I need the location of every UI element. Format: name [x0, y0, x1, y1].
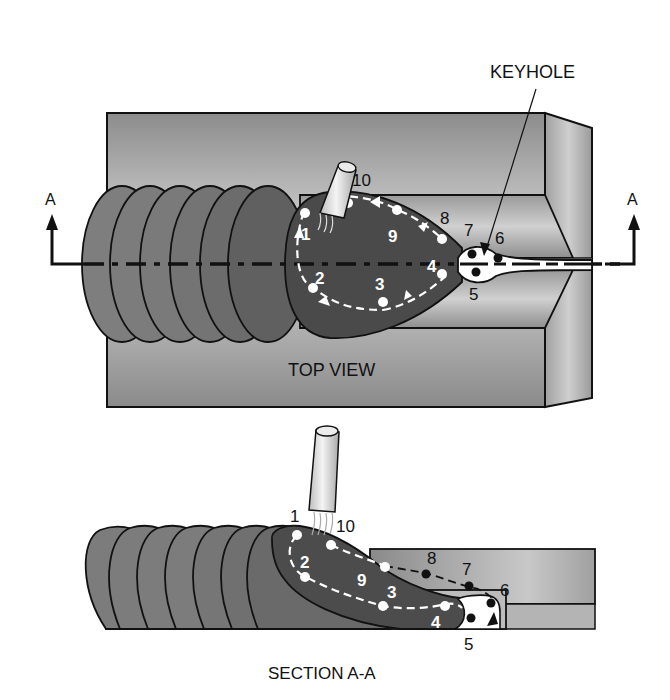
section-marker-left: A [45, 191, 56, 208]
top-view-title: TOP VIEW [288, 360, 375, 380]
point-label-3: 3 [375, 275, 384, 294]
section-point-label-8: 8 [427, 549, 436, 568]
section-point-label-9: 9 [357, 571, 366, 590]
point-label-10: 10 [352, 171, 371, 190]
point-label-6: 6 [495, 229, 504, 248]
section-point-label-10: 10 [336, 517, 355, 536]
electrode-section [309, 426, 339, 535]
section-point-label-6: 6 [500, 581, 509, 600]
keyhole-label: KEYHOLE [490, 62, 575, 82]
section-point-label-3: 3 [387, 583, 396, 602]
point-label-5: 5 [469, 285, 478, 304]
section-view: 1 2 3 4 5 6 7 8 9 10 SECTION A-A [86, 426, 595, 683]
point-label-2: 2 [315, 269, 324, 288]
section-point-label-1: 1 [290, 507, 299, 526]
section-marker-right: A [627, 191, 638, 208]
point-label-8: 8 [440, 209, 449, 228]
section-view-title: SECTION A-A [268, 664, 376, 683]
point-label-9: 9 [388, 227, 397, 246]
section-point-label-7: 7 [462, 560, 471, 579]
section-point-label-4: 4 [431, 613, 441, 632]
section-point-label-2: 2 [300, 553, 309, 572]
section-point-label-5: 5 [464, 635, 473, 654]
point-label-4: 4 [427, 257, 437, 276]
welding-keyhole-diagram: 1 2 3 4 5 6 7 8 9 10 A A KEYHOLE TOP VIE… [0, 0, 670, 700]
point-label-1: 1 [301, 225, 310, 244]
top-view: 1 2 3 4 5 6 7 8 9 10 A A KEYHOLE TOP VIE… [45, 62, 640, 407]
point-label-7: 7 [464, 221, 473, 240]
